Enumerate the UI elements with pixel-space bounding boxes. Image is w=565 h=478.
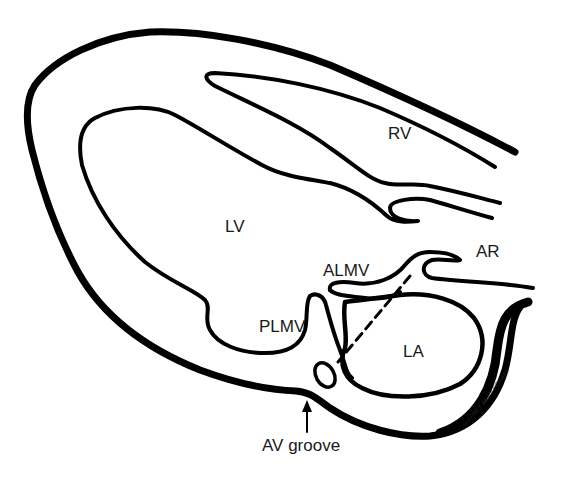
label-la: LA	[403, 343, 424, 360]
label-lv: LV	[225, 218, 245, 235]
mitral-annulus-dashed-line	[338, 276, 410, 362]
label-ar: AR	[476, 243, 500, 260]
label-almv: ALMV	[323, 262, 369, 279]
label-plmv: PLMV	[259, 318, 305, 335]
rv-inner-wall	[206, 73, 500, 203]
outer-epicardium	[27, 32, 520, 436]
av-groove-arrowhead-icon	[302, 400, 312, 412]
label-av-groove: AV groove	[262, 437, 340, 454]
coronary-sinus	[311, 359, 340, 391]
label-rv: RV	[388, 125, 411, 142]
